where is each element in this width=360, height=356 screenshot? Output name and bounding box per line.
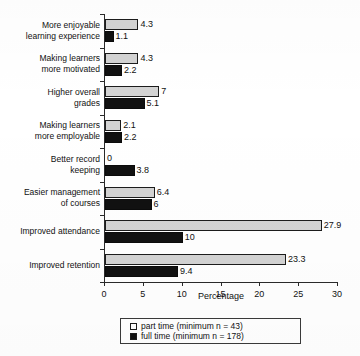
category-label-line: Higher overall: [4, 87, 100, 98]
category-label-line: Improved attendance: [4, 226, 100, 237]
x-axis-tick: [182, 282, 183, 286]
bar-full-time: [105, 266, 178, 277]
bar-value-label: 9.4: [180, 266, 193, 277]
bar-value-label: 2.2: [124, 132, 137, 143]
bar-part-time: [105, 220, 322, 231]
category-label-line: more employable: [4, 131, 100, 142]
category-label: Improved attendance: [4, 226, 100, 237]
x-axis-tick: [259, 282, 260, 286]
bar-group: 4.31.1: [105, 19, 338, 42]
bar-value-label: 27.9: [324, 220, 342, 231]
bar-full-time: [105, 31, 114, 42]
legend-label-part-time: part time (minimum n = 43): [141, 322, 243, 331]
bar-part-time: [105, 254, 286, 265]
bar-group: 27.910: [105, 220, 338, 243]
bar-part-time: [105, 187, 155, 198]
plot-area: 0510152025304.31.14.32.275.12.12.203.86.…: [104, 14, 337, 282]
bar-value-label: 7: [161, 86, 166, 97]
x-axis-title: Percentage: [104, 291, 338, 301]
bar-group: 2.12.2: [105, 120, 338, 143]
bar-part-time: [105, 19, 138, 30]
y-axis-tick: [100, 115, 104, 116]
category-label: Making learnersmore employable: [4, 120, 100, 142]
category-label-line: keeping: [4, 165, 100, 176]
y-axis-tick: [100, 282, 104, 283]
bar-group: 23.39.4: [105, 254, 338, 277]
x-axis-tick: [104, 282, 105, 286]
legend-swatch-open-square-icon: [130, 323, 137, 330]
bar-value-label: 6.4: [157, 187, 170, 198]
category-label-line: Improved retention: [4, 260, 100, 271]
bar-value-label: 2.2: [124, 65, 137, 76]
bar-full-time: [105, 199, 152, 210]
y-axis-tick: [100, 14, 104, 15]
bar-part-time: [105, 120, 121, 131]
category-label-line: Easier management: [4, 187, 100, 198]
bar-value-label: 5.1: [147, 98, 160, 109]
bar-group: 6.46: [105, 187, 338, 210]
bar-value-label: 3.8: [137, 165, 150, 176]
bar-value-label: 4.3: [140, 19, 153, 30]
category-label-line: grades: [4, 98, 100, 109]
category-label-line: more motivated: [4, 64, 100, 75]
x-axis-tick: [298, 282, 299, 286]
bar-value-label: 1.1: [116, 31, 129, 42]
y-axis-tick: [100, 48, 104, 49]
category-label: Better recordkeeping: [4, 154, 100, 176]
bar-full-time: [105, 132, 122, 143]
bar-full-time: [105, 232, 183, 243]
category-label-line: Making learners: [4, 53, 100, 64]
bar-full-time: [105, 165, 135, 176]
bar-chart-figure: More enjoyablelearning experienceMaking …: [0, 0, 360, 356]
category-label: Higher overallgrades: [4, 87, 100, 109]
bar-value-label: 10: [185, 232, 195, 243]
x-axis-tick: [221, 282, 222, 286]
x-axis-tick: [337, 282, 338, 286]
bar-group: 4.32.2: [105, 53, 338, 76]
category-label: Improved retention: [4, 260, 100, 271]
category-label-line: Better record: [4, 154, 100, 165]
legend-label-full-time: full time (minimum n = 178): [141, 332, 244, 341]
y-axis-tick: [100, 81, 104, 82]
chart-legend: part time (minimum n = 43) full time (mi…: [120, 318, 301, 344]
bar-value-label: 23.3: [288, 254, 306, 265]
category-label-line: Making learners: [4, 120, 100, 131]
bar-value-label: 6: [154, 199, 159, 210]
category-label-column: More enjoyablelearning experienceMaking …: [0, 14, 100, 282]
category-label: Making learnersmore motivated: [4, 53, 100, 75]
category-label-line: More enjoyable: [4, 20, 100, 31]
legend-swatch-filled-square-icon: [130, 333, 137, 340]
y-axis-tick: [100, 215, 104, 216]
legend-entry-full-time: full time (minimum n = 178): [130, 331, 244, 342]
category-label-line: learning experience: [4, 31, 100, 42]
x-axis-tick: [143, 282, 144, 286]
bar-value-label: 4.3: [140, 53, 153, 64]
y-axis-tick: [100, 249, 104, 250]
bar-part-time: [105, 86, 159, 97]
bar-group: 03.8: [105, 153, 338, 176]
bar-part-time: [105, 53, 138, 64]
bar-value-label: 0: [107, 153, 112, 164]
category-label: More enjoyablelearning experience: [4, 20, 100, 42]
bar-full-time: [105, 98, 145, 109]
category-label: Easier managementof courses: [4, 187, 100, 209]
y-axis-tick: [100, 182, 104, 183]
category-label-line: of courses: [4, 198, 100, 209]
bar-full-time: [105, 65, 122, 76]
bar-value-label: 2.1: [123, 120, 136, 131]
y-axis-tick: [100, 148, 104, 149]
bar-group: 75.1: [105, 86, 338, 109]
